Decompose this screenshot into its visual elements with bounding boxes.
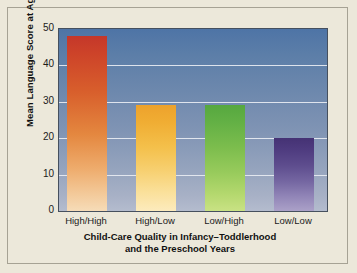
bar-high-low [136, 105, 176, 211]
y-tick-label: 20 [20, 132, 54, 142]
x-axis-ticks: High/High High/Low Low/High Low/Low [58, 215, 328, 229]
bar-high-high [67, 36, 107, 211]
bar-low-high [205, 105, 245, 211]
x-axis-label-line2: and the Preschool Years [30, 243, 330, 255]
x-tick-label-low-high: Low/High [190, 215, 258, 226]
y-tick-label: 0 [20, 205, 54, 215]
x-axis-label: Child-Care Quality in Infancy–Toddlerhoo… [30, 231, 330, 255]
y-axis-ticks: 50 40 30 20 10 0 [18, 28, 54, 212]
y-tick-label: 40 [20, 59, 54, 69]
y-tick-label: 50 [20, 23, 54, 33]
bar-low-low [274, 138, 314, 211]
x-axis-label-line1: Child-Care Quality in Infancy–Toddlerhoo… [30, 231, 330, 243]
plot-area [58, 28, 328, 212]
x-tick-label-low-low: Low/Low [259, 215, 327, 226]
x-tick-label-high-low: High/Low [121, 215, 189, 226]
y-tick-label: 30 [20, 96, 54, 106]
y-tick-label: 10 [20, 169, 54, 179]
x-tick-label-high-high: High/High [52, 215, 120, 226]
chart-figure: Mean Language Score at Age 5 50 40 30 20… [0, 0, 357, 273]
